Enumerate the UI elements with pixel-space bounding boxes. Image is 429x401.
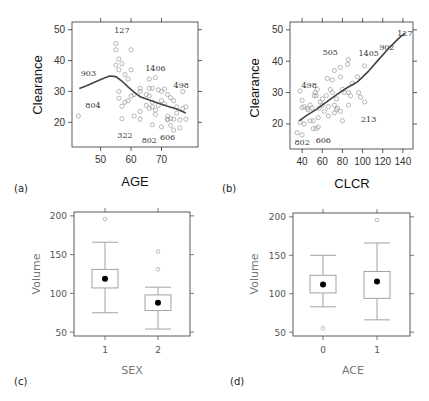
data-point	[178, 118, 182, 122]
y-tick-label: 50	[275, 328, 287, 338]
data-point	[114, 48, 118, 52]
data-point	[326, 114, 330, 118]
boxplots	[310, 218, 390, 330]
data-point	[300, 133, 304, 137]
data-point	[346, 58, 350, 62]
data-point	[295, 131, 299, 135]
data-point	[324, 94, 328, 98]
point-label: 1406	[145, 64, 165, 73]
x-tick-label: 100	[354, 156, 371, 167]
data-point	[356, 90, 360, 94]
point-label: 498	[174, 81, 189, 90]
data-point	[172, 128, 176, 132]
data-point	[169, 123, 173, 127]
data-point	[338, 65, 342, 69]
data-point	[123, 72, 127, 76]
median-dot	[102, 276, 108, 282]
x-axis-title: AGE	[121, 174, 149, 189]
x-tick-label: 60	[317, 156, 329, 167]
data-point	[326, 105, 330, 109]
point-label: 606	[160, 133, 175, 142]
data-point	[153, 108, 157, 112]
data-point	[320, 97, 324, 101]
scatter-points	[76, 42, 188, 133]
data-point	[159, 125, 163, 129]
y-axis-title: Clearance	[247, 58, 262, 117]
data-point	[340, 119, 344, 123]
data-point	[138, 89, 142, 93]
point-labels: 1271406903498804322802606	[81, 26, 189, 145]
x-tick-label: 0	[320, 345, 326, 355]
boxplot-1	[92, 217, 118, 313]
x-tick-label: 120	[374, 156, 391, 167]
median-dot	[320, 281, 326, 287]
data-point	[153, 75, 157, 79]
plot-frame	[74, 212, 190, 336]
x-axis-title: ACE	[342, 364, 364, 377]
data-point	[322, 109, 326, 113]
data-point	[120, 62, 124, 66]
data-point	[120, 104, 124, 108]
panel-label: (b)	[222, 183, 236, 194]
panel-c-sex-boxplot: 5010015020012 SEX Volume (c)	[14, 208, 194, 387]
data-point	[355, 75, 359, 79]
median-dot	[374, 278, 380, 284]
boxplot-1	[364, 218, 390, 320]
figure: 1271406903498804322802606 20304050506070…	[0, 0, 429, 401]
x-tick-label: 50	[95, 154, 107, 165]
y-tick-label: 20	[54, 117, 66, 128]
panel-d-ace-boxplot: 5010015020001 ACE Volume (d)	[230, 209, 414, 387]
data-point	[346, 103, 350, 107]
y-axis-title: Clearance	[30, 55, 45, 114]
data-point	[150, 86, 154, 90]
data-point	[138, 117, 142, 121]
data-point	[147, 77, 151, 81]
data-point	[310, 106, 314, 110]
data-point	[363, 100, 367, 104]
data-point	[138, 109, 142, 113]
point-label: 802	[142, 136, 157, 145]
boxplot-0	[310, 255, 336, 330]
point-labels: 1279021405505498213802606	[294, 29, 412, 147]
x-tick-label: 60	[125, 154, 137, 165]
median-dot	[155, 300, 161, 306]
panel-a-age-scatter: 1271406903498804322802606 20304050506070…	[14, 18, 202, 194]
data-point	[302, 122, 306, 126]
data-point	[172, 117, 176, 121]
data-point	[184, 117, 188, 121]
point-label: 804	[85, 101, 100, 110]
x-tick-label: 80	[337, 156, 349, 167]
x-tick-label: 2	[155, 345, 161, 355]
data-point	[162, 87, 166, 91]
panel-label: (d)	[230, 376, 244, 387]
x-axis-title: CLCR	[334, 176, 369, 191]
x-tick-label: 1	[374, 345, 380, 355]
y-tick-label: 20	[272, 118, 284, 129]
data-point	[153, 112, 157, 116]
data-point	[172, 99, 176, 103]
data-point	[129, 68, 133, 72]
data-point	[150, 123, 154, 127]
data-point	[325, 76, 329, 80]
data-point	[129, 48, 133, 52]
point-label: 505	[323, 48, 338, 57]
data-point	[117, 57, 121, 61]
panel-b-clcr-scatter: 1279021405505498213802606 20304050406080…	[222, 18, 417, 194]
data-point	[76, 114, 80, 118]
point-label: 903	[81, 69, 96, 78]
y-tick-label: 40	[272, 56, 284, 67]
data-point	[363, 64, 367, 68]
data-point	[332, 69, 336, 73]
point-label: 498	[302, 81, 317, 90]
data-point	[316, 116, 320, 120]
x-tick-label: 70	[156, 154, 168, 165]
point-label: 127	[114, 26, 129, 35]
data-point	[330, 78, 334, 82]
data-point	[338, 75, 342, 79]
data-point	[117, 89, 121, 93]
y-axis-title: Volume	[30, 253, 43, 294]
point-label: 606	[316, 136, 331, 145]
outlier-point	[375, 218, 379, 222]
point-label: 1405	[358, 49, 378, 58]
data-point	[311, 119, 315, 123]
